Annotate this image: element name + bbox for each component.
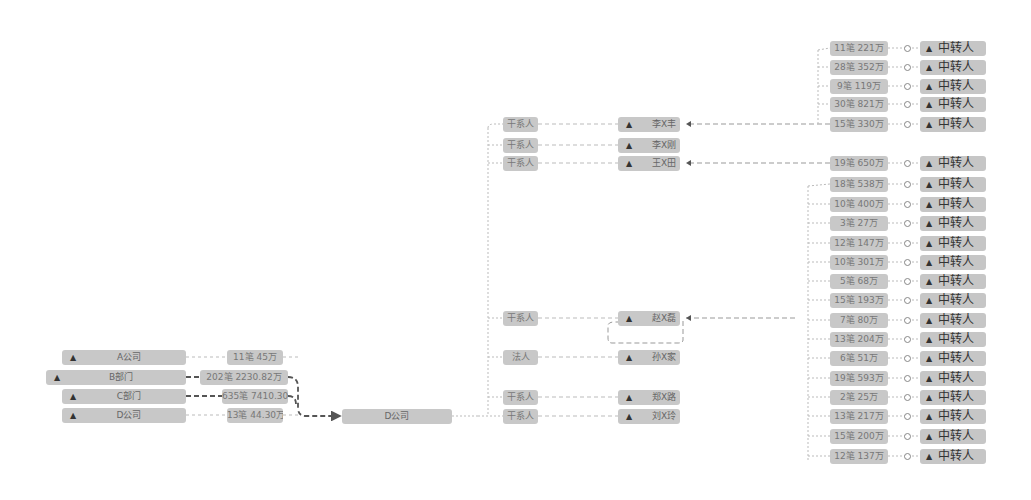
- connector-ring-icon: [904, 413, 911, 420]
- connector-ring-icon: [904, 160, 911, 167]
- person-node[interactable]: ▲ 李X丰: [618, 117, 680, 132]
- connector-ring-icon: [904, 240, 911, 247]
- source-amount-a[interactable]: 11笔 45万: [227, 350, 283, 365]
- home-icon: ▲: [70, 408, 76, 423]
- person-icon: ▲: [626, 311, 632, 326]
- relay-node[interactable]: ▲中转人: [920, 313, 986, 328]
- person-node[interactable]: ▲ 郑X路: [618, 390, 680, 405]
- relay-node[interactable]: ▲中转人: [920, 390, 986, 405]
- relay-node[interactable]: ▲中转人: [920, 449, 986, 464]
- person-icon: ▲: [626, 156, 632, 171]
- relay-node[interactable]: ▲中转人: [920, 197, 986, 212]
- connector-ring-icon: [904, 83, 911, 90]
- role-tag[interactable]: 干系人: [503, 311, 538, 326]
- transfer-amount[interactable]: 2笔 25万: [830, 390, 888, 405]
- relay-node[interactable]: ▲中转人: [920, 60, 986, 75]
- connector-ring-icon: [904, 297, 911, 304]
- transfer-amount[interactable]: 6笔 51万: [830, 351, 888, 366]
- transfer-amount[interactable]: 7笔 80万: [830, 313, 888, 328]
- source-amount-d[interactable]: 13笔 44.30万: [227, 408, 283, 423]
- relay-node[interactable]: ▲中转人: [920, 332, 986, 347]
- relay-node[interactable]: ▲中转人: [920, 97, 986, 112]
- connector-ring-icon: [904, 64, 911, 71]
- relay-node[interactable]: ▲中转人: [920, 117, 986, 132]
- role-tag[interactable]: 干系人: [503, 390, 538, 405]
- relay-node[interactable]: ▲中转人: [920, 429, 986, 444]
- person-node[interactable]: ▲ 李X刚: [618, 138, 680, 153]
- person-icon: ▲: [926, 390, 932, 405]
- role-tag[interactable]: 干系人: [503, 409, 538, 424]
- home-icon: ▲: [70, 350, 76, 365]
- connector-ring-icon: [904, 336, 911, 343]
- person-icon: ▲: [926, 79, 932, 94]
- person-node[interactable]: ▲ 赵X磊: [618, 311, 680, 326]
- connector-ring-icon: [904, 220, 911, 227]
- source-node-a[interactable]: ▲ A公司: [62, 350, 186, 365]
- transfer-amount[interactable]: 12笔 147万: [830, 236, 888, 251]
- person-icon: ▲: [926, 429, 932, 444]
- relay-node[interactable]: ▲中转人: [920, 274, 986, 289]
- transfer-amount[interactable]: 10笔 301万: [830, 255, 888, 270]
- transfer-amount[interactable]: 18笔 538万: [830, 177, 888, 192]
- person-icon: ▲: [926, 293, 932, 308]
- relay-node[interactable]: ▲中转人: [920, 371, 986, 386]
- transfer-amount[interactable]: 10笔 400万: [830, 197, 888, 212]
- person-node[interactable]: ▲ 刘X玲: [618, 409, 680, 424]
- source-node-b[interactable]: ▲ B部门: [46, 370, 186, 385]
- transfer-amount[interactable]: 15笔 193万: [830, 293, 888, 308]
- source-node-c[interactable]: ▲ C部门: [62, 389, 186, 404]
- relay-node[interactable]: ▲中转人: [920, 216, 986, 231]
- person-icon: ▲: [926, 117, 932, 132]
- transfer-amount[interactable]: 9笔 119万: [830, 79, 888, 94]
- connector-ring-icon: [904, 259, 911, 266]
- role-tag[interactable]: 干系人: [503, 138, 538, 153]
- person-icon: ▲: [926, 236, 932, 251]
- relay-node[interactable]: ▲中转人: [920, 409, 986, 424]
- source-node-d[interactable]: ▲ D公司: [62, 408, 186, 423]
- connector-ring-icon: [904, 278, 911, 285]
- transfer-amount[interactable]: 30笔 821万: [830, 97, 888, 112]
- person-node[interactable]: ▲ 孙X家: [618, 350, 680, 365]
- person-icon: ▲: [926, 216, 932, 231]
- relay-node[interactable]: ▲中转人: [920, 177, 986, 192]
- person-icon: ▲: [626, 390, 632, 405]
- person-node[interactable]: ▲ 王X田: [618, 156, 680, 171]
- relay-node[interactable]: ▲中转人: [920, 156, 986, 171]
- connector-ring-icon: [904, 201, 911, 208]
- transfer-amount[interactable]: 11笔 221万: [830, 41, 888, 56]
- person-icon: ▲: [926, 409, 932, 424]
- source-amount-c[interactable]: 635笔 7410.30万: [222, 389, 288, 404]
- connector-ring-icon: [904, 433, 911, 440]
- person-icon: ▲: [926, 351, 932, 366]
- person-icon: ▲: [626, 409, 632, 424]
- person-icon: ▲: [926, 156, 932, 171]
- relay-node[interactable]: ▲中转人: [920, 236, 986, 251]
- relationship-graph: ▲ A公司 ▲ B部门 ▲ C部门 ▲ D公司 11笔 45万 202笔 223…: [0, 0, 1031, 500]
- transfer-amount[interactable]: 19笔 593万: [830, 371, 888, 386]
- role-tag[interactable]: 法人: [503, 350, 538, 365]
- person-icon: ▲: [926, 255, 932, 270]
- transfer-amount[interactable]: 5笔 68万: [830, 274, 888, 289]
- relay-node[interactable]: ▲中转人: [920, 79, 986, 94]
- person-icon: ▲: [926, 177, 932, 192]
- transfer-amount[interactable]: 12笔 137万: [830, 449, 888, 464]
- person-icon: ▲: [626, 350, 632, 365]
- relay-node[interactable]: ▲中转人: [920, 293, 986, 308]
- relay-node[interactable]: ▲中转人: [920, 351, 986, 366]
- role-tag[interactable]: 干系人: [503, 156, 538, 171]
- source-amount-b[interactable]: 202笔 2230.82万: [200, 370, 288, 385]
- transfer-amount[interactable]: 15笔 200万: [830, 429, 888, 444]
- transfer-amount[interactable]: 19笔 650万: [830, 156, 888, 171]
- relay-node[interactable]: ▲中转人: [920, 41, 986, 56]
- connector-ring-icon: [904, 355, 911, 362]
- center-node[interactable]: D公司: [342, 409, 452, 424]
- transfer-amount[interactable]: 3笔 27万: [830, 216, 888, 231]
- transfer-amount[interactable]: 13笔 204万: [830, 332, 888, 347]
- relay-node[interactable]: ▲中转人: [920, 255, 986, 270]
- transfer-amount[interactable]: 15笔 330万: [830, 117, 888, 132]
- role-tag[interactable]: 干系人: [503, 117, 538, 132]
- transfer-amount[interactable]: 13笔 217万: [830, 409, 888, 424]
- person-icon: ▲: [926, 449, 932, 464]
- transfer-amount[interactable]: 28笔 352万: [830, 60, 888, 75]
- person-icon: ▲: [926, 97, 932, 112]
